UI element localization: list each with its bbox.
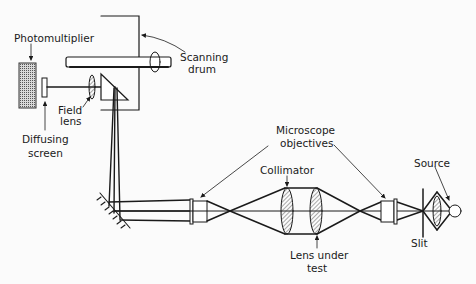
diagram-canvas: Photomultiplier Scanning drum Field lens…	[0, 0, 476, 284]
label-slit: Slit	[411, 237, 428, 249]
label-microscope: Microscope	[276, 124, 335, 136]
label-diffusing: Diffusing	[22, 133, 69, 145]
label-scanning: Scanning	[180, 51, 228, 63]
collimator-lens	[310, 188, 322, 234]
condenser-lens	[433, 196, 441, 226]
scanning-drum	[66, 52, 171, 72]
field-lens	[89, 75, 95, 99]
label-lens-under: Lens under	[290, 249, 348, 261]
label-test: test	[307, 262, 327, 274]
microscope-objective-right	[381, 199, 397, 224]
label-drum: drum	[188, 63, 216, 75]
label-source: Source	[414, 157, 450, 169]
source-lamp	[449, 205, 461, 217]
photomultiplier	[19, 63, 36, 108]
label-photomultiplier: Photomultiplier	[14, 32, 94, 44]
lens-under-test	[281, 188, 293, 234]
label-lens: lens	[60, 115, 82, 127]
label-screen: screen	[28, 147, 63, 159]
label-collimator: Collimator	[260, 164, 314, 176]
vertical-beams	[109, 88, 120, 219]
diffusing-screen	[42, 78, 47, 97]
label-objectives: objectives	[280, 137, 333, 149]
